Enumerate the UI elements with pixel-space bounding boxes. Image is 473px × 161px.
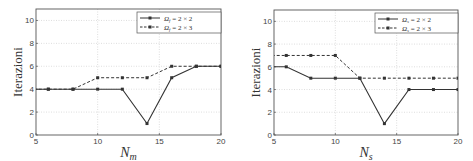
y-axis-label: Iterazioni xyxy=(248,47,263,97)
legend-marker xyxy=(149,17,152,20)
y-tick-label: 10 xyxy=(25,16,34,25)
legend-entry-label: Ωf = 2 × 3 xyxy=(164,24,193,33)
data-point-marker xyxy=(309,54,312,57)
data-point-marker xyxy=(170,65,173,68)
data-point-marker xyxy=(309,77,312,80)
y-tick-label: 4 xyxy=(30,85,35,94)
figure-canvas: 02468105101520IterazioniNmΩf = 2 × 2Ωf =… xyxy=(0,0,473,161)
data-point-marker xyxy=(47,88,50,91)
legend-entry-label: Ωs = 2 × 2 xyxy=(402,16,431,25)
x-axis-label-subscript: s xyxy=(369,151,373,161)
y-tick-label: 4 xyxy=(268,86,273,95)
data-point-marker xyxy=(407,88,410,91)
legend-marker xyxy=(149,26,152,29)
y-tick-label: 8 xyxy=(30,39,35,48)
series-line-solid xyxy=(24,66,221,123)
legend-rhs: = 2 × 2 xyxy=(170,15,192,23)
data-point-marker xyxy=(72,88,75,91)
data-point-marker xyxy=(121,88,124,91)
data-point-marker xyxy=(457,77,460,80)
data-point-marker xyxy=(96,76,99,79)
data-point-marker xyxy=(334,77,337,80)
legend-entry-label: Ωf = 2 × 2 xyxy=(164,15,193,24)
y-tick-label: 6 xyxy=(268,63,273,72)
x-tick-label: 10 xyxy=(331,137,340,146)
y-tick-label: 2 xyxy=(30,108,35,117)
data-point-marker xyxy=(432,88,435,91)
data-point-marker xyxy=(285,65,288,68)
data-point-marker xyxy=(170,76,173,79)
series-group xyxy=(262,54,460,125)
data-point-marker xyxy=(220,65,223,68)
data-point-marker xyxy=(383,77,386,80)
y-tick-label: 10 xyxy=(263,17,272,26)
series-line-solid xyxy=(262,67,458,124)
data-point-marker xyxy=(146,76,149,79)
data-point-marker xyxy=(146,122,149,125)
y-axis-label: Iterazioni xyxy=(10,47,25,97)
x-tick-label: 20 xyxy=(217,137,226,146)
y-tick-label: 8 xyxy=(268,40,273,49)
x-tick-label: 20 xyxy=(454,137,463,146)
legend-entry-label: Ωs = 2 × 3 xyxy=(402,25,431,34)
data-point-marker xyxy=(121,76,124,79)
legend-rhs: = 2 × 3 xyxy=(170,24,192,32)
legend-rhs: = 2 × 2 xyxy=(409,16,431,24)
data-point-marker xyxy=(334,54,337,57)
data-point-marker xyxy=(96,88,99,91)
x-tick-label: 10 xyxy=(93,137,102,146)
y-tick-label: 6 xyxy=(30,62,35,71)
x-axis-label: Ns xyxy=(358,145,372,161)
data-point-marker xyxy=(358,77,361,80)
legend: Ωs = 2 × 2Ωs = 2 × 3 xyxy=(375,13,458,33)
chart-iterations-vs-ns: 02468105101520IterazioniNsΩs = 2 × 2Ωs =… xyxy=(248,10,463,161)
legend-marker xyxy=(387,27,390,30)
x-tick-label: 15 xyxy=(392,137,401,146)
series-group xyxy=(24,65,223,125)
legend: Ωf = 2 × 2Ωf = 2 × 3 xyxy=(137,12,221,33)
data-point-marker xyxy=(457,88,460,91)
x-tick-label: 5 xyxy=(34,137,39,146)
x-axis-label-subscript: m xyxy=(130,151,137,161)
x-tick-label: 15 xyxy=(155,137,164,146)
data-point-marker xyxy=(383,122,386,125)
legend-marker xyxy=(387,18,390,21)
chart-iterations-vs-nm: 02468105101520IterazioniNmΩf = 2 × 2Ωf =… xyxy=(10,9,226,161)
data-point-marker xyxy=(407,77,410,80)
y-tick-label: 2 xyxy=(268,108,273,117)
legend-rhs: = 2 × 3 xyxy=(409,25,431,33)
data-point-marker xyxy=(285,54,288,57)
x-tick-label: 5 xyxy=(272,137,277,146)
x-axis-label: Nm xyxy=(119,145,137,161)
data-point-marker xyxy=(195,65,198,68)
data-point-marker xyxy=(432,77,435,80)
